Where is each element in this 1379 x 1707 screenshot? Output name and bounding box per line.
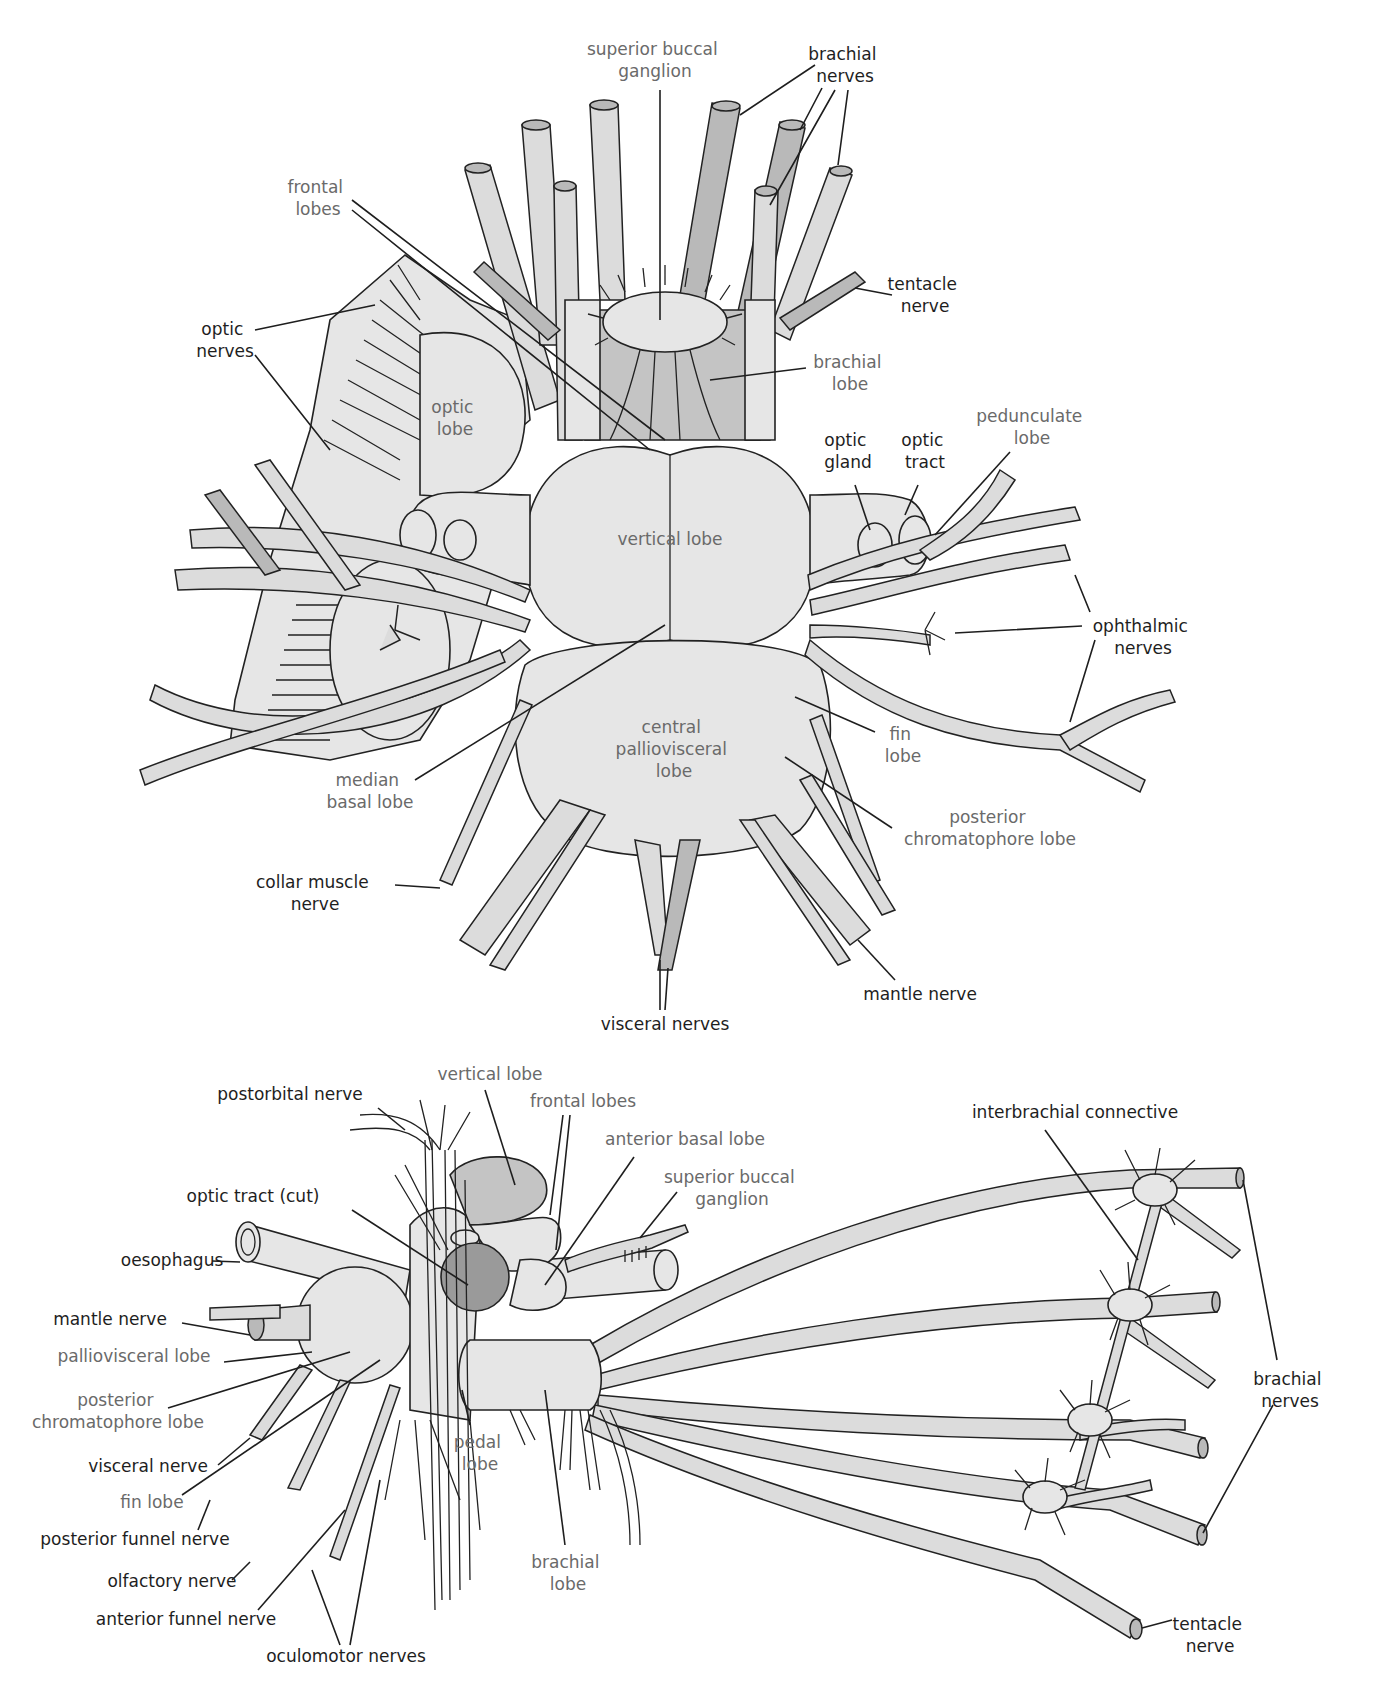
label-frontal-lobes-lateral: frontal lobes [530, 1091, 636, 1111]
label-superior-buccal-ganglion-lateral: superior buccal ganglion [664, 1167, 800, 1209]
mantle-nerve-thin [210, 1305, 280, 1320]
label-mantle-nerve-lateral: mantle nerve [53, 1309, 167, 1329]
palliovisceral-lobe [297, 1267, 413, 1383]
label-vertical-lobe-lateral: vertical lobe [437, 1064, 542, 1084]
label-pedunculate-lobe: pedunculate lobe [976, 406, 1087, 448]
label-optic-tract: optic tract [901, 430, 948, 472]
label-anterior-funnel-nerve: anterior funnel nerve [96, 1609, 276, 1629]
label-postorbital-nerve: postorbital nerve [217, 1084, 363, 1104]
optic-tract-cut [441, 1243, 509, 1311]
brachial-column-left [565, 300, 600, 440]
palliovisceral-nerves [250, 1365, 400, 1560]
label-median-basal-lobe: median basal lobe [327, 770, 414, 812]
label-visceral-nerve: visceral nerve [88, 1456, 208, 1476]
label-palliovisceral-lobe: palliovisceral lobe [57, 1346, 210, 1366]
label-collar-muscle-nerve: collar muscle nerve [256, 872, 374, 914]
label-oesophagus: oesophagus [121, 1250, 224, 1270]
label-brachial-lobe: brachial lobe [813, 352, 887, 394]
label-visceral-nerves: visceral nerves [601, 1014, 730, 1034]
top-diagram: superior buccal ganglion brachial nerves… [140, 39, 1193, 1034]
label-mantle-nerve: mantle nerve [863, 984, 977, 1004]
label-optic-gland: optic gland [824, 430, 872, 472]
label-olfactory-nerve: olfactory nerve [107, 1571, 236, 1591]
label-optic-nerves: optic nerves [196, 319, 254, 361]
label-fin-lobe-lateral: fin lobe [120, 1492, 183, 1512]
label-vertical-lobe: vertical lobe [617, 529, 722, 549]
optic-tract-ring-left [444, 520, 476, 560]
label-superior-buccal-ganglion: superior buccal ganglion [587, 39, 723, 81]
pedal-brachial-cylinder [459, 1340, 602, 1410]
label-tentacle-nerve: tentacle nerve [888, 274, 963, 316]
label-frontal-lobes: frontal lobes [288, 177, 349, 219]
label-posterior-funnel-nerve: posterior funnel nerve [40, 1529, 229, 1549]
label-fin-lobe: fin lobe [885, 724, 921, 766]
brachial-column-right [745, 300, 775, 440]
label-tentacle-nerve-lateral: tentacle nerve [1173, 1614, 1248, 1656]
label-optic-tract-cut: optic tract (cut) [187, 1186, 320, 1206]
label-interbrachial-connective: interbrachial connective [972, 1102, 1178, 1122]
label-posterior-chromatophore-lobe: posterior chromatophore lobe [904, 807, 1076, 849]
label-brachial-nerves: brachial nerves [808, 44, 882, 86]
bottom-diagram: postorbital nerve vertical lobe frontal … [32, 1064, 1327, 1666]
label-brachial-nerves-lateral: brachial nerves [1253, 1369, 1327, 1411]
label-ophthalmic-nerves: ophthalmic nerves [1093, 616, 1194, 658]
label-pedal-lobe: pedal lobe [454, 1432, 507, 1474]
label-posterior-chromatophore-lobe-lateral: posterior chromatophore lobe [32, 1390, 204, 1432]
cephalopod-brain-diagram: superior buccal ganglion brachial nerves… [0, 0, 1379, 1707]
label-brachial-lobe-lateral: brachial lobe [531, 1552, 605, 1594]
label-oculomotor-nerves: oculomotor nerves [266, 1646, 426, 1666]
label-anterior-basal-lobe: anterior basal lobe [605, 1129, 765, 1149]
